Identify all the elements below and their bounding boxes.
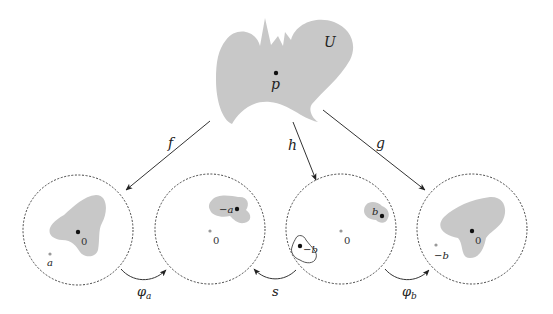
disk-4-point-neg-b-label: −b: [434, 250, 449, 261]
disk-1-point-a-dot: [48, 252, 51, 255]
disk-1: 0 a: [23, 175, 133, 285]
disk-3-point-b-label: b: [372, 206, 378, 217]
disk-2-origin-label: 0: [213, 235, 219, 246]
region-u: p U: [216, 18, 353, 124]
region-u-label: U: [324, 34, 337, 50]
disk-1-origin-dot: [76, 230, 80, 234]
disk-2-boundary: [155, 174, 265, 284]
disk-2-point-neg-a-label: −a: [219, 204, 233, 215]
map-phi-a-label: φa: [137, 284, 151, 301]
disk-3-point-neg-b-dot: [298, 244, 302, 248]
disk-1-point-a-label: a: [47, 257, 53, 268]
map-g-label: g: [376, 135, 385, 151]
map-s-label: s: [272, 284, 279, 299]
disk-4-region: [440, 197, 505, 258]
disk-1-origin-label: 0: [81, 236, 87, 247]
disk-3-origin-dot: [339, 229, 342, 232]
disk-3-point-b-dot: [380, 214, 384, 218]
disk-3-boundary: [286, 174, 396, 284]
disk-3-point-neg-b-label: −b: [303, 244, 318, 255]
disk-3-origin-label: 0: [344, 235, 350, 246]
disk-4-point-neg-b-dot: [434, 243, 437, 246]
disk-4: 0 −b: [417, 174, 527, 284]
map-g-arrow: [323, 110, 425, 190]
disk-4-origin-label: 0: [475, 235, 481, 246]
disk-4-origin-dot: [470, 229, 474, 233]
point-p-dot: [274, 71, 278, 75]
commutative-diagram: p U f h g 0 a −a 0 b −b 0: [0, 0, 553, 314]
map-phi-a-arrow: [121, 269, 166, 280]
map-h-label: h: [288, 137, 297, 153]
map-f-label: f: [167, 135, 176, 151]
map-s-arrow: [254, 269, 296, 279]
disk-2-point-neg-a-dot: [235, 207, 239, 211]
point-p-label: p: [271, 76, 280, 92]
disk-2: −a 0: [155, 174, 265, 284]
disk-3: b −b 0: [286, 174, 396, 284]
map-phi-b-arrow: [385, 269, 429, 280]
disk-2-origin-dot: [208, 229, 211, 232]
map-phi-b-label: φb: [402, 284, 417, 301]
map-f-arrow: [126, 121, 210, 190]
disk-1-region: [50, 195, 106, 256]
